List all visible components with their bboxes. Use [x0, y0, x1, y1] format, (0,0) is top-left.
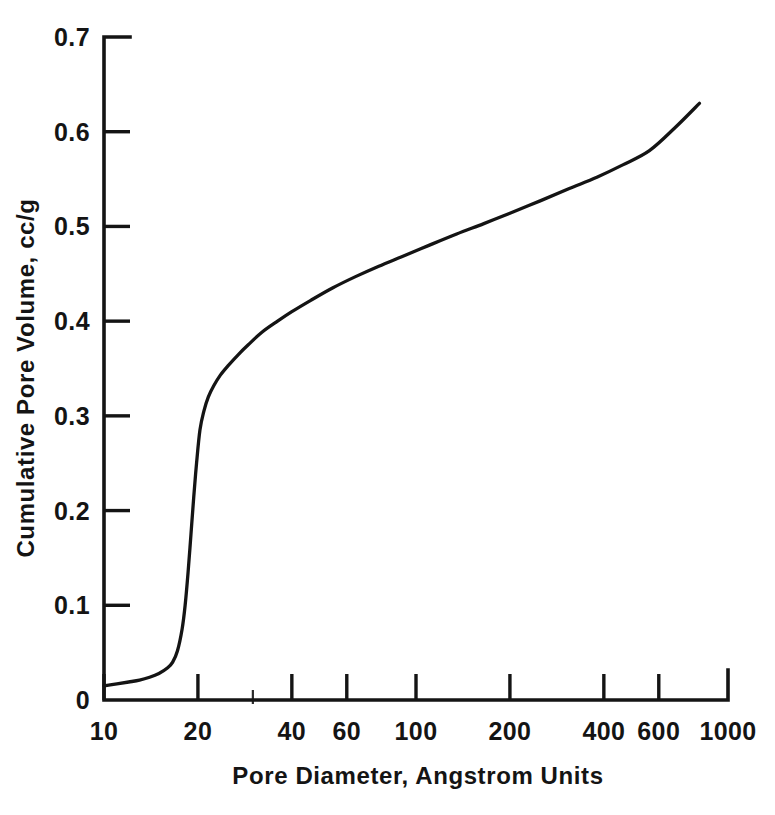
x-axis-label-600: 600 [637, 717, 680, 745]
x-axis-label-20: 20 [184, 717, 213, 745]
y-axis-label-0p6: 0.6 [54, 118, 90, 146]
x-axis-tick-labels: 102040601002004006001000 [90, 717, 757, 745]
x-axis-label-40: 40 [278, 717, 307, 745]
y-axis-label-0p2: 0.2 [54, 497, 90, 525]
y-axis-label-0p3: 0.3 [54, 402, 90, 430]
y-axis-label-0: 0 [76, 686, 90, 714]
x-axis-label-200: 200 [488, 717, 531, 745]
x-axis-label-60: 60 [332, 717, 361, 745]
x-axis-label-1000: 1000 [699, 717, 756, 745]
x-axis-label-10: 10 [90, 717, 119, 745]
y-axis-label-0p5: 0.5 [54, 212, 90, 240]
chart-canvas: 102040601002004006001000 00.10.20.30.40.… [0, 0, 775, 815]
x-axis-label-100: 100 [395, 717, 438, 745]
y-axis-label-0p4: 0.4 [54, 307, 90, 335]
chart-figure: 102040601002004006001000 00.10.20.30.40.… [0, 0, 775, 815]
y-axis-title: Cumulative Pore Volume, cc/g [12, 198, 39, 557]
x-axis-label-400: 400 [582, 717, 625, 745]
x-axis-title: Pore Diameter, Angstrom Units [232, 762, 603, 789]
y-axis-label-0p1: 0.1 [54, 591, 90, 619]
y-axis-label-0p7: 0.7 [54, 23, 90, 51]
